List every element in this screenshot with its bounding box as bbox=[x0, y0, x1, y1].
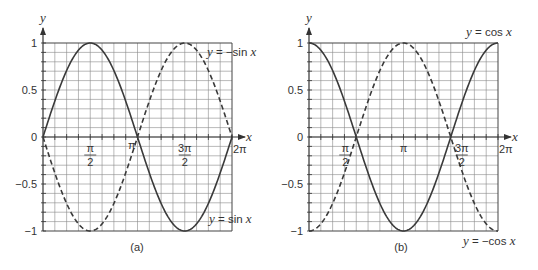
svg-text:2: 2 bbox=[87, 156, 93, 168]
y-tick-label: −0.5 bbox=[15, 178, 37, 190]
svg-text:3π: 3π bbox=[455, 142, 469, 154]
x-tick-label: π bbox=[128, 139, 136, 151]
y-tick-label: 1 bbox=[31, 37, 37, 49]
x-tick-label: 2π bbox=[233, 143, 247, 155]
y-tick-label: 0 bbox=[297, 131, 303, 143]
svg-text:2: 2 bbox=[459, 156, 465, 168]
svg-text:π: π bbox=[86, 142, 94, 154]
x-tick-label-fraction: π2 bbox=[339, 142, 351, 168]
x-axis-label: x bbox=[245, 129, 252, 144]
x-tick-label-fraction: 3π2 bbox=[455, 142, 469, 168]
axes bbox=[41, 28, 245, 231]
figure: 10.50−0.5−1π2π3π22π y x y = −sin x y = s… bbox=[0, 0, 538, 270]
y-tick-label: 0 bbox=[31, 131, 37, 143]
curve-label-sin: y = sin x bbox=[207, 211, 252, 226]
chart-panel-a: 10.50−0.5−1π2π3π22π y x y = −sin x y = s… bbox=[15, 10, 256, 253]
y-tick-label: 0.5 bbox=[288, 84, 303, 96]
svg-text:3π: 3π bbox=[178, 142, 192, 154]
y-tick-label: −0.5 bbox=[281, 178, 303, 190]
curve-label-cos: y = cos x bbox=[464, 24, 512, 39]
svg-text:2: 2 bbox=[182, 156, 188, 168]
x-tick-label-fraction: 3π2 bbox=[178, 142, 192, 168]
curve-label-neg-sin: y = −sin x bbox=[205, 44, 257, 59]
chart-panel-b: 10.50−0.5−1π2π3π22π y x y = cos x y = −c… bbox=[281, 10, 518, 253]
panel-caption: (b) bbox=[394, 241, 407, 253]
y-tick-label: −1 bbox=[24, 225, 37, 237]
y-tick-label: 0.5 bbox=[22, 84, 37, 96]
svg-text:π: π bbox=[341, 142, 349, 154]
x-axis-label: x bbox=[511, 129, 518, 144]
panel-caption: (a) bbox=[130, 241, 143, 253]
y-tick-label: 1 bbox=[297, 37, 303, 49]
x-tick-label-fraction: π2 bbox=[84, 142, 96, 168]
y-axis-label: y bbox=[38, 10, 46, 25]
x-tick-label: 2π bbox=[499, 143, 513, 155]
y-tick-label: −1 bbox=[290, 225, 303, 237]
x-tick-label: π bbox=[400, 142, 408, 154]
svg-text:2: 2 bbox=[342, 156, 348, 168]
y-axis-label: y bbox=[304, 10, 312, 25]
curve-label-neg-cos: y = −cos x bbox=[461, 233, 516, 248]
